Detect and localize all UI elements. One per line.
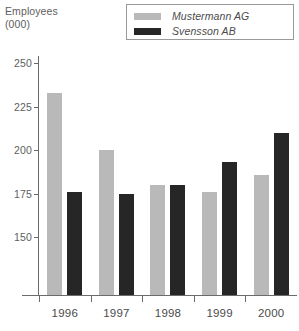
x-axis-label-1999: 1999 (206, 307, 232, 319)
bar-group (194, 56, 246, 295)
y-axis-title-line2: (000) (5, 18, 58, 31)
x-axis-tick (245, 295, 246, 302)
bar-group (245, 56, 297, 295)
x-axis-line (22, 295, 297, 296)
bar-mustermann-ag-2000 (254, 175, 269, 295)
legend-swatch-svensson (134, 28, 161, 35)
x-axis-tick (91, 295, 92, 302)
x-axis-tick (142, 295, 143, 302)
bar-group (142, 56, 194, 295)
y-axis-title: Employees (000) (5, 5, 58, 31)
legend-item-mustermann: Mustermann AG (134, 9, 249, 23)
legend: Mustermann AG Svensson AB (126, 4, 294, 40)
legend-label-mustermann: Mustermann AG (172, 10, 249, 22)
bar-mustermann-ag-1996 (47, 93, 62, 295)
bar-svensson-ab-2000 (274, 133, 289, 295)
y-axis-title-line1: Employees (5, 5, 58, 18)
x-axis-label-2000: 2000 (258, 307, 284, 319)
y-axis-label: 150 (2, 231, 32, 243)
bar-mustermann-ag-1998 (150, 185, 165, 295)
y-axis-label: 250 (2, 57, 32, 69)
x-axis-tick (39, 295, 40, 302)
bar-chart: Employees (000) Mustermann AG Svensson A… (0, 0, 299, 331)
bar-svensson-ab-1999 (222, 162, 237, 295)
bar-mustermann-ag-1999 (202, 192, 217, 295)
bar-svensson-ab-1996 (67, 192, 82, 295)
plot-area (39, 56, 297, 295)
y-axis-label: 225 (2, 101, 32, 113)
x-axis-label-1998: 1998 (155, 307, 181, 319)
bar-group (91, 56, 143, 295)
x-axis-label-1996: 1996 (52, 307, 78, 319)
x-axis-label-1997: 1997 (103, 307, 129, 319)
bar-svensson-ab-1997 (119, 194, 134, 295)
legend-item-svensson: Svensson AB (134, 24, 236, 38)
legend-swatch-mustermann (134, 13, 161, 20)
bar-mustermann-ag-1997 (99, 150, 114, 295)
y-axis-label: 175 (2, 188, 32, 200)
x-axis-tick (194, 295, 195, 302)
y-axis-label: 200 (2, 144, 32, 156)
bar-group (39, 56, 91, 295)
bar-svensson-ab-1998 (170, 185, 185, 295)
legend-label-svensson: Svensson AB (172, 25, 236, 37)
